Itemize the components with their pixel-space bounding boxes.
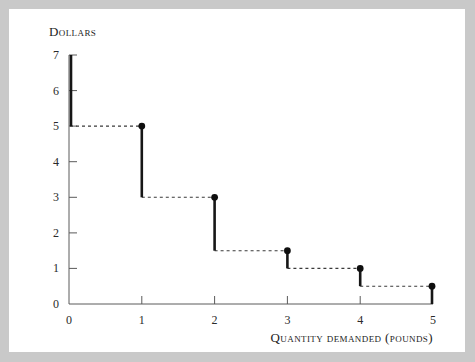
y-tick-label-3: 3 xyxy=(53,190,59,204)
step-dot-x1 xyxy=(138,123,145,130)
y-tick-label-4: 4 xyxy=(53,155,59,169)
y-axis-title: Dollars xyxy=(49,24,96,39)
x-tick-label-5: 5 xyxy=(430,313,436,327)
step-dot-x3 xyxy=(284,247,291,254)
y-tick-label-2: 2 xyxy=(53,226,59,240)
x-tick-label-3: 3 xyxy=(284,313,290,327)
step-dot-x5 xyxy=(429,283,436,290)
x-tick-label-4: 4 xyxy=(357,313,363,327)
x-tick-label-1: 1 xyxy=(139,313,145,327)
x-axis-group xyxy=(69,296,433,304)
y-tick-label-7: 7 xyxy=(53,48,59,62)
y-tick-label-6: 6 xyxy=(53,84,59,98)
y-tick-label-0: 0 xyxy=(53,297,59,311)
x-axis-title: Quantity demanded (pounds) xyxy=(271,330,433,345)
figure-panel: 7 6 5 4 3 2 1 0 0 1 2 3 4 5 xyxy=(9,9,465,352)
y-tick-label-5: 5 xyxy=(53,119,59,133)
step-dot-x4 xyxy=(357,265,364,272)
y-tick-label-1: 1 xyxy=(53,261,59,275)
x-tick-label-0: 0 xyxy=(66,313,72,327)
x-tick-labels: 0 1 2 3 4 5 xyxy=(66,313,436,327)
step-connectors xyxy=(70,126,433,286)
step-dot-x2 xyxy=(211,194,218,201)
x-tick-label-2: 2 xyxy=(212,313,218,327)
y-tick-labels: 7 6 5 4 3 2 1 0 xyxy=(53,48,59,311)
step-bars xyxy=(71,55,432,304)
demand-step-chart: 7 6 5 4 3 2 1 0 0 1 2 3 4 5 xyxy=(9,9,465,352)
